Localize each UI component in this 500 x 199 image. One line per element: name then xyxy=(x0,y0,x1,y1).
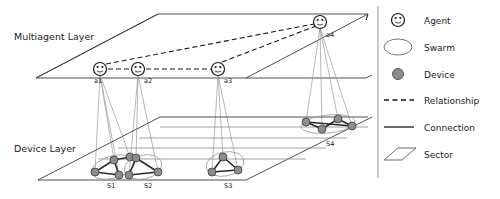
legend-item-swarm: Swarm xyxy=(384,39,455,55)
agent-eye-left-icon xyxy=(135,66,137,68)
sector-label-s4: S4 xyxy=(326,140,334,148)
agent-a3[interactable]: a3 xyxy=(212,63,233,86)
device-dot[interactable] xyxy=(208,168,216,176)
device-dot[interactable] xyxy=(110,156,118,164)
multiagent-plane-diag-edge xyxy=(246,14,368,78)
connection-a1-d1 xyxy=(95,75,100,172)
legend-label-relationship: Relationship xyxy=(424,96,480,106)
connection-a4-d11 xyxy=(306,28,320,122)
device-dot[interactable] xyxy=(334,115,342,123)
agent-label-a1: a1 xyxy=(94,77,102,85)
agent-icon[interactable] xyxy=(212,63,225,76)
device-dot[interactable] xyxy=(318,125,326,133)
device-dot[interactable] xyxy=(302,118,310,126)
agent-label-a4: a4 xyxy=(326,31,334,39)
legend-item-device: Device xyxy=(393,69,456,81)
connection-a3-d9 xyxy=(212,75,218,172)
legend-label-connection: Connection xyxy=(424,123,475,133)
agent-eye-left-icon xyxy=(395,17,397,19)
agent-eye-left-icon xyxy=(97,66,99,68)
device-dot-icon xyxy=(393,69,404,80)
sector-label-s2: S2 xyxy=(144,182,152,190)
agent-eye-right-icon xyxy=(399,17,401,19)
legend-item-connection: Connection xyxy=(384,123,475,133)
agent-a4[interactable]: a4 xyxy=(314,16,335,40)
device-dot[interactable] xyxy=(348,122,356,130)
connection-a4-d14 xyxy=(320,28,352,126)
relationship-a1-a4 xyxy=(106,24,314,64)
parallelogram-icon xyxy=(384,148,416,160)
agent-icon[interactable] xyxy=(314,16,327,29)
legend-label-device: Device xyxy=(424,70,455,80)
device-dot[interactable] xyxy=(154,168,162,176)
sector-label-s1: S1 xyxy=(107,182,115,190)
agent-label-a3: a3 xyxy=(224,77,232,85)
agent-eye-left-icon xyxy=(317,19,319,21)
agent-icon[interactable] xyxy=(132,63,145,76)
swarm-s4[interactable] xyxy=(300,112,356,136)
device-layer-label: Device Layer xyxy=(14,143,76,154)
agent-eye-right-icon xyxy=(321,19,323,21)
legend: Agent Swarm Device Relationship Connecti… xyxy=(378,6,480,178)
agent-label-a2: a2 xyxy=(144,77,152,85)
relationship-a3-a4 xyxy=(222,26,316,62)
connection-a1-d3 xyxy=(100,75,130,157)
multiagent-plane-corner xyxy=(366,75,372,78)
device-dot[interactable] xyxy=(132,154,140,162)
legend-label-sector: Sector xyxy=(424,150,453,160)
connection-a4-d13 xyxy=(320,28,338,119)
legend-item-relationship: Relationship xyxy=(384,96,480,106)
device-dot[interactable] xyxy=(125,171,133,179)
multiagent-layer-label: Multiagent Layer xyxy=(14,31,94,42)
agent-icon[interactable] xyxy=(94,63,107,76)
legend-label-swarm: Swarm xyxy=(424,43,455,53)
device-dot[interactable] xyxy=(219,153,227,161)
sector-label-s3: S3 xyxy=(224,182,232,190)
device-dot[interactable] xyxy=(115,171,123,179)
architecture-diagram: a1 a2 a3 a4 S1 S2 S3 S4 Mult xyxy=(0,0,500,199)
connection-a4-d12 xyxy=(320,28,322,129)
agent-eye-right-icon xyxy=(139,66,141,68)
device-dot[interactable] xyxy=(91,168,99,176)
device-dot[interactable] xyxy=(234,166,242,174)
legend-item-agent: Agent xyxy=(392,14,452,27)
agent-eye-left-icon xyxy=(215,66,217,68)
agent-eye-right-icon xyxy=(101,66,103,68)
diagram-canvas: a1 a2 a3 a4 S1 S2 S3 S4 Mult xyxy=(0,0,500,199)
agent-eye-right-icon xyxy=(219,66,221,68)
agent-icon xyxy=(392,14,405,27)
legend-item-sector: Sector xyxy=(384,148,453,160)
swarm-ellipse-icon xyxy=(384,39,412,55)
agent-a1[interactable]: a1 xyxy=(94,63,107,86)
agent-a2[interactable]: a2 xyxy=(132,63,153,86)
legend-label-agent: Agent xyxy=(424,16,451,26)
swarm-s3[interactable] xyxy=(204,148,246,179)
